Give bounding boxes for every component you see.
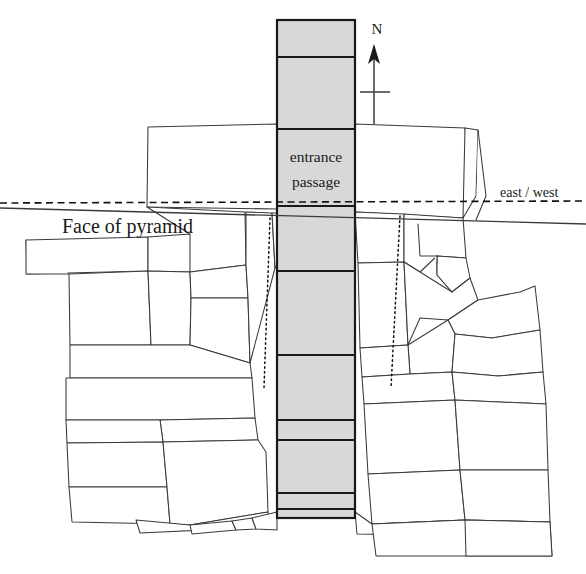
face-column-block (246, 212, 275, 363)
left-row-block-a (66, 378, 255, 420)
left-mid-block-b (148, 271, 191, 345)
left-low-block-b (69, 487, 170, 524)
plan-drawing-canvas: N entrance passage Face of pyramid east … (0, 0, 586, 574)
entrance-passage-label-line1: entrance (290, 148, 343, 165)
north-label: N (372, 21, 383, 37)
right-low-block-c (368, 470, 465, 524)
right-low-block-d (460, 470, 550, 522)
lintel-block-right (355, 124, 470, 218)
lintel-block-left (147, 124, 277, 209)
entrance-passage-shaft (277, 20, 355, 518)
right-strip-a (360, 345, 410, 377)
right-low-block-b (455, 400, 548, 470)
north-arrow-icon: N (360, 21, 390, 124)
entrance-passage-label-line2: passage (292, 173, 340, 190)
pyramid-entrance-plan-figure: N entrance passage Face of pyramid east … (0, 0, 586, 574)
right-mid-block-a (358, 262, 408, 348)
center-low-big-block (163, 440, 268, 525)
right-low-block-a (364, 400, 460, 474)
face-of-pyramid-label: Face of pyramid (62, 215, 193, 238)
upper-right-edge-block (463, 128, 478, 218)
left-mid-block-a (69, 271, 151, 345)
east-west-axis-dashed-line (0, 201, 586, 203)
left-low-block-a (67, 442, 167, 487)
entrance-passage-group (277, 20, 355, 518)
right-strip-b (362, 372, 455, 404)
right-foot-block-b (465, 520, 552, 556)
right-block-upper-right (452, 330, 543, 376)
left-row-block-b (160, 418, 258, 442)
east-west-label: east / west (500, 185, 558, 200)
right-upper-block-a (355, 212, 404, 263)
right-strip-c (452, 372, 546, 404)
left-row-block-c (66, 420, 163, 443)
